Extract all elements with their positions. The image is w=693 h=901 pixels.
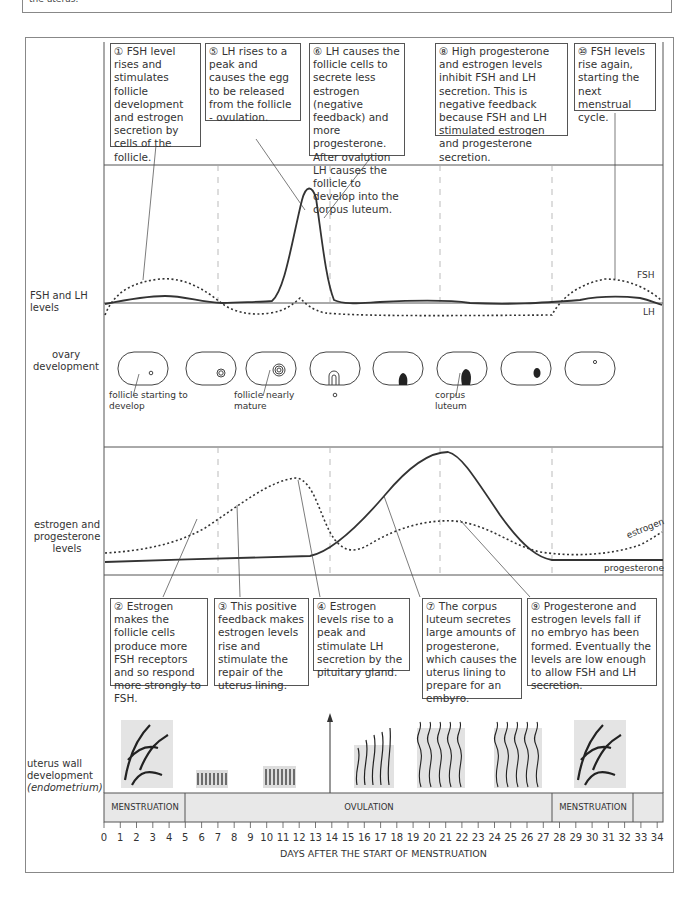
ovary-stage-5	[373, 352, 423, 385]
row-label-hormones: FSH and LH levels	[30, 290, 100, 314]
progesterone-curve	[105, 452, 663, 562]
ovary-stages	[118, 352, 615, 397]
endometrium-thin-2	[263, 766, 296, 788]
annotation-number: ②	[114, 600, 123, 612]
annotation-4: ④ Estrogen levels rise to a peak and sti…	[313, 598, 410, 671]
x-axis-title: DAYS AFTER THE START OF MENSTRUATION	[104, 848, 663, 859]
follicle-starting-label: follicle starting to develop	[109, 390, 189, 412]
fsh-curve	[105, 279, 662, 316]
row-label-ovarian-hormones: estrogen and progesterone levels	[30, 519, 104, 555]
uterus-label-text: uterus wall development	[27, 758, 93, 781]
annotation-5: ⑤ LH rises to a peak and causes the egg …	[205, 43, 301, 121]
x-axis-ticks	[104, 822, 657, 828]
corpus-luteum-shrinking	[534, 368, 541, 378]
corpus-luteum-label: corpus luteum	[435, 390, 475, 412]
annotation-2: ② Estrogen makes the follicle cells prod…	[110, 598, 208, 686]
progesterone-label: progesterone	[604, 563, 664, 574]
annotation-text: Progesterone and estrogen levels fall if…	[531, 600, 651, 691]
annotation-number: ⑨	[531, 600, 540, 612]
annotation-8: ⑧ High progesterone and estrogen levels …	[435, 43, 568, 136]
row-label-uterus: uterus wall development(endometrium)	[27, 758, 107, 794]
tick-label: 34	[647, 832, 667, 843]
annotation-text: LH rises to a peak and causes the egg to…	[209, 45, 291, 123]
annotation-text: This positive feedback makes estrogen le…	[218, 600, 304, 691]
ovary-stage-2	[186, 352, 236, 385]
row-label-ovary: ovary development	[30, 349, 102, 373]
corpus-luteum	[461, 369, 471, 385]
ovary-stage-3	[246, 352, 296, 385]
annotation-number: ⑥	[313, 45, 322, 57]
corpus-luteum-forming	[399, 373, 408, 385]
annotation-6: ⑥ LH causes the follicle cells to secret…	[309, 43, 405, 156]
annotation-1: ① FSH level rises and stimulates follicl…	[110, 43, 201, 147]
annotation-9: ⑨ Progesterone and estrogen levels fall …	[527, 598, 657, 686]
annotation-number: ③	[218, 600, 227, 612]
phase-menstruation-1: MENSTRUATION	[106, 802, 184, 812]
endometrium-illustrations	[121, 713, 626, 793]
ovary-stage-1	[118, 352, 168, 385]
follicle-mature-label: follicle nearly mature	[234, 390, 296, 412]
annotation-number: ⑧	[439, 45, 448, 57]
fsh-label: FSH	[637, 270, 655, 281]
annotation-text: Estrogen levels rise to a peak and stimu…	[317, 600, 402, 678]
annotation-number: ⑩	[578, 45, 587, 57]
annotation-text: The corpus luteum secretes large amounts…	[426, 600, 517, 704]
annotation-3: ③ This positive feedback makes estrogen …	[214, 598, 309, 686]
ovary-stage-8	[565, 352, 615, 385]
estrogen-curve	[105, 478, 662, 555]
annotation-10: ⑩ FSH levels rise again, starting the ne…	[574, 43, 656, 111]
endometrium-label-text: (endometrium)	[27, 782, 103, 793]
annotation-number: ④	[317, 600, 326, 612]
annotation-number: ①	[114, 45, 123, 57]
annotation-text: FSH level rises and stimulates follicle …	[114, 45, 183, 163]
annotation-7: ⑦ The corpus luteum secretes large amoun…	[422, 598, 522, 699]
endometrium-thin-1	[196, 770, 228, 788]
annotation-text: Estrogen makes the follicle cells produc…	[114, 600, 201, 704]
ovary-stage-7	[501, 352, 551, 385]
annotation-text: LH causes the follicle cells to secrete …	[313, 45, 400, 215]
phase-menstruation-2: MENSTRUATION	[553, 802, 633, 812]
lh-label: LH	[643, 307, 655, 318]
annotation-number: ⑤	[209, 45, 218, 57]
day-gridlines	[218, 165, 552, 575]
ovary-stage-4	[310, 352, 360, 385]
leader-lines	[133, 113, 615, 597]
annotation-number: ⑦	[426, 600, 435, 612]
phase-ovulation: OVULATION	[186, 802, 552, 812]
